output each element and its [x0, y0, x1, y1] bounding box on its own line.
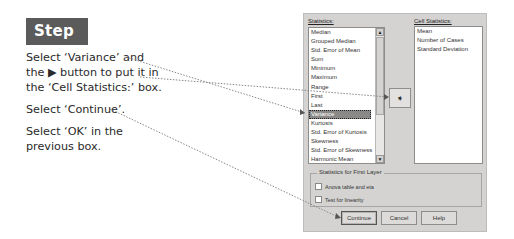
leader-to-continue [110, 109, 340, 218]
arrowhead-icon [335, 213, 341, 219]
arrowhead-icon [300, 109, 305, 115]
leader-to-variance [126, 57, 305, 113]
arrowhead-icon [384, 94, 389, 100]
leader-to-arrow-button [140, 77, 388, 97]
leader-lines [0, 0, 514, 239]
